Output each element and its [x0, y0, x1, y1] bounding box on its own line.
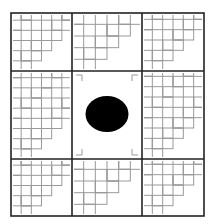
tiled-grid-diagram [0, 0, 213, 224]
black-circle [86, 96, 129, 132]
